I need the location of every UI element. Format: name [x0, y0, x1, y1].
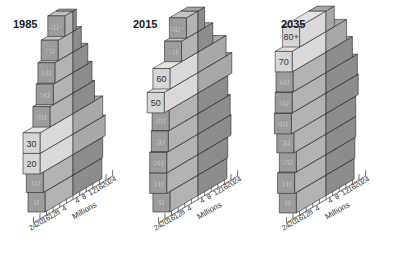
axis-tick-label: 4	[326, 195, 334, 205]
axis-tick-label: 8	[333, 192, 341, 202]
top-face-right	[56, 9, 76, 11]
pyramid-title-1985: 1985	[13, 18, 37, 30]
age-label: 0	[159, 197, 164, 207]
age-label: 70	[45, 46, 55, 56]
age-label: 10	[153, 179, 163, 189]
age-label: 50	[40, 90, 50, 100]
age-label: 70	[279, 57, 289, 67]
age-label: 30	[155, 137, 165, 147]
age-label: 60	[156, 74, 166, 84]
axis-tick-label: 4	[185, 203, 193, 213]
pyramids-svg: 24201612844812162024Millions010203040506…	[0, 0, 393, 258]
age-label: 20	[283, 157, 293, 167]
age-label: 0	[34, 197, 39, 207]
age-block-80plus: 80+	[48, 9, 77, 36]
age-label: 60	[279, 77, 289, 87]
axis-tick-label: 8	[205, 192, 213, 202]
axis-label-millions: Millions	[196, 200, 224, 221]
axis-label-millions: Millions	[324, 200, 352, 221]
age-label: 10	[281, 179, 291, 189]
age-label: 30	[280, 138, 290, 148]
age-label: 50	[151, 98, 161, 108]
age-label: 80+	[49, 22, 64, 32]
age-label: 70	[168, 47, 178, 57]
age-label: 10	[30, 178, 40, 188]
pyramid-title-2035: 2035	[281, 18, 305, 30]
age-label: 20	[153, 158, 163, 168]
side-face-right	[73, 9, 76, 31]
age-label: 40	[278, 119, 288, 129]
axis-tick-label: 4	[60, 203, 68, 213]
age-label: 40	[36, 112, 46, 122]
axis-tick-label: 4	[198, 195, 206, 205]
age-label: 80+	[170, 24, 185, 34]
pyramid-1985: 24201612844812162024Millions010203040506…	[23, 9, 118, 232]
axis-tick-label: 8	[80, 192, 88, 202]
pyramid-2035: 24201612844812162024Millions010203040506…	[274, 6, 371, 232]
age-label: 20	[26, 159, 36, 169]
axis-label-millions: Millions	[71, 200, 99, 221]
age-label: 50	[279, 98, 289, 108]
pyramid-2015: 24201612844812162024Millions010203040506…	[147, 7, 243, 232]
age-label: 30	[26, 139, 36, 149]
population-pyramids-figure: 24201612844812162024Millions010203040506…	[0, 0, 393, 258]
axis-tick-label: 4	[313, 203, 321, 213]
age-label: 60	[41, 68, 51, 78]
axis-tick-label: 4	[73, 195, 81, 205]
age-label: 0	[285, 198, 290, 208]
age-label: 80+	[283, 32, 298, 42]
age-label: 40	[156, 116, 166, 126]
pyramid-title-2015: 2015	[133, 18, 157, 30]
